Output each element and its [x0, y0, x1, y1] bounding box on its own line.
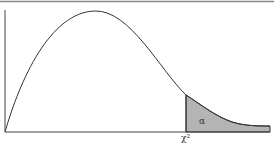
alpha-region — [186, 95, 270, 132]
chi-square-diagram — [0, 0, 274, 144]
density-curve — [5, 11, 270, 132]
critical-value-label: χ² — [181, 133, 190, 143]
alpha-label: α — [199, 116, 205, 126]
